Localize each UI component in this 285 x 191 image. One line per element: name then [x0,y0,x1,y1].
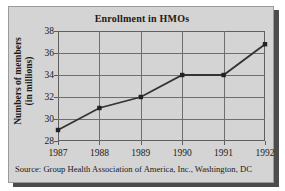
y-tick-label: 28 [45,136,55,146]
plot-area: 283032343638 198719881989199019911992 [58,31,265,141]
series-polyline [58,44,265,130]
data-point-marker [221,73,225,77]
x-tick-label: 1987 [49,148,68,158]
y-tick-label: 36 [45,48,55,58]
x-tick-mark [265,141,266,145]
data-point-marker [180,73,184,77]
x-tick-mark [224,141,225,145]
data-point-marker [97,106,101,110]
x-tick-mark [58,141,59,145]
data-point-marker [263,42,267,46]
data-series-line [58,31,265,141]
x-tick-label: 1991 [214,148,233,158]
x-tick-label: 1988 [90,148,109,158]
x-tick-mark [182,141,183,145]
chart-panel: Enrollment in HMOs Numbers of members (i… [8,6,274,183]
x-tick-mark [99,141,100,145]
data-point-marker [139,95,143,99]
y-axis-label-line-2: (in millions) [24,25,35,137]
y-tick-label: 38 [45,26,55,36]
x-tick-label: 1992 [256,148,275,158]
x-tick-label: 1990 [173,148,192,158]
y-tick-label: 34 [45,70,55,80]
x-tick-mark [141,141,142,145]
y-tick-label: 30 [45,114,55,124]
data-point-marker [56,128,60,132]
y-tick-label: 32 [45,92,55,102]
x-tick-label: 1989 [131,148,150,158]
y-axis-label-line-1: Numbers of members [13,25,24,137]
chart-figure: Enrollment in HMOs Numbers of members (i… [0,0,285,191]
chart-title: Enrollment in HMOs [9,13,275,24]
source-note: Source: Group Health Association of Amer… [15,164,273,174]
y-axis-label: Numbers of members (in millions) [13,25,35,137]
